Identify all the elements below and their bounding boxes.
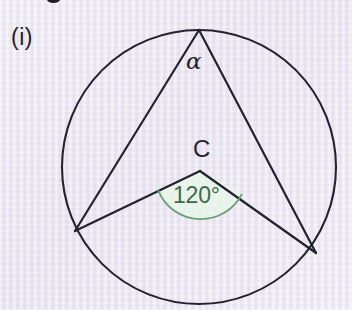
chord-apex-to-right bbox=[199, 30, 316, 253]
part-label: (i) bbox=[11, 26, 33, 49]
figure-page: (i) α C 120° bbox=[0, 0, 352, 310]
alpha-angle-label: α bbox=[186, 50, 202, 73]
circle-center-label: C bbox=[193, 137, 210, 161]
circle-geometry-diagram bbox=[0, 0, 352, 310]
central-angle-value-label: 120° bbox=[173, 184, 220, 207]
